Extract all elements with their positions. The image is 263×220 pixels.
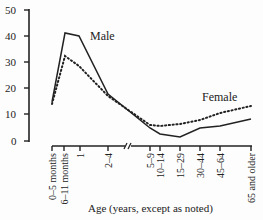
x-axis: 0–5 months 6–11 months 1 2–4 5–9 10–14 1… xyxy=(47,143,257,215)
x-tick-30-44: 30–44 xyxy=(195,153,206,178)
y-tick-10: 10 xyxy=(5,108,17,120)
x-tick-0-5-months: 0–5 months xyxy=(47,153,58,200)
female-label: Female xyxy=(202,90,237,104)
y-tick-40: 40 xyxy=(5,30,17,42)
male-label: Male xyxy=(90,29,115,43)
chart-svg: 50 40 30 20 10 0 0–5 months 6–11 months … xyxy=(0,0,263,220)
y-tick-20: 20 xyxy=(5,82,17,94)
x-tick-65-and-older: 65 and older xyxy=(246,152,257,203)
y-tick-0: 0 xyxy=(11,135,17,147)
x-tick-15-29: 15–29 xyxy=(175,153,186,178)
y-axis: 50 40 30 20 10 0 xyxy=(5,4,29,147)
x-tick-1: 1 xyxy=(75,153,86,158)
y-tick-30: 30 xyxy=(5,56,17,68)
male-series-line xyxy=(52,33,251,137)
x-tick-2-4: 2–4 xyxy=(103,153,114,168)
x-axis-title: Age (years, except as noted) xyxy=(88,202,213,215)
x-tick-6-11-months: 6–11 months xyxy=(59,153,70,205)
x-tick-45-64: 45–64 xyxy=(215,153,226,178)
y-tick-50: 50 xyxy=(5,4,17,16)
x-tick-10-14: 10–14 xyxy=(155,153,166,178)
